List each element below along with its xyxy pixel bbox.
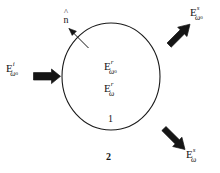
region-label-outside: 2: [106, 152, 111, 162]
incident-field-sub-subscript: 0: [15, 71, 18, 76]
scattered-elastic-field-label: Esω0: [190, 6, 207, 20]
internal-shifted-field-label: Erω: [104, 82, 119, 96]
scattered-shifted-field-label: Esω: [186, 148, 201, 162]
scattered-shifted-superscript: s: [193, 146, 196, 154]
scattering-diagram: Eiω0 Esω0 Esω Erω0 Erω ˄ n 1 2: [0, 0, 220, 173]
internal-elastic-field-label: Erω0: [104, 60, 121, 74]
region-label-inside: 1: [108, 114, 113, 124]
scattered-shifted-subscript: ω: [191, 155, 196, 164]
internal-elastic-superscript: r: [111, 58, 114, 66]
normal-symbol: n: [60, 15, 72, 24]
incident-field-superscript: i: [13, 60, 15, 68]
internal-elastic-sub-subscript: 0: [114, 69, 117, 74]
incident-field-label: Eiω0: [6, 62, 22, 76]
incident-field-arrow: [34, 69, 61, 84]
internal-shifted-subscript: ω: [109, 89, 114, 98]
surface-normal-label: ˄ n: [60, 10, 72, 24]
scattered-elastic-field-arrow: [167, 24, 190, 47]
scattered-shifted-field-arrow: [162, 127, 185, 150]
scattered-elastic-sub-subscript: 0: [200, 15, 203, 20]
scattered-elastic-superscript: s: [197, 4, 200, 12]
internal-shifted-superscript: r: [111, 80, 114, 88]
